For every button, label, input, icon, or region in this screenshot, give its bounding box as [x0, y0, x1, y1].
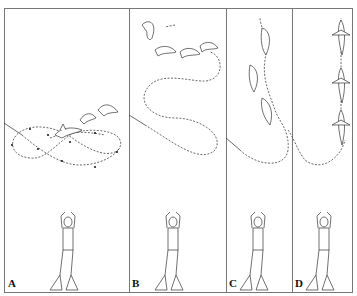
panel-label-c: C	[229, 277, 237, 289]
panel-label-a: A	[8, 277, 16, 289]
panel-c-path	[226, 18, 288, 163]
shark-top-view-icon	[332, 20, 350, 145]
diver-icon	[50, 212, 334, 290]
panel-d-path	[288, 18, 345, 165]
panel-label-d: D	[295, 277, 303, 289]
panel-label-b: B	[132, 277, 139, 289]
dolphin-icon	[55, 105, 118, 138]
dolphin-icon	[142, 22, 218, 58]
figure-canvas	[0, 0, 357, 296]
dolphin-icon	[249, 28, 271, 125]
panel-borders	[5, 8, 353, 293]
